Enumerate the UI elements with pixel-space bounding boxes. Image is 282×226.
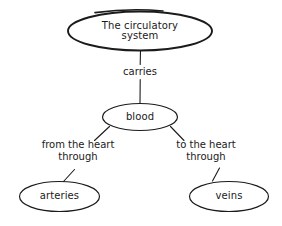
edge-right-label-to-veins xyxy=(213,168,220,181)
edge-label-to-the-heart-through: to the heart through xyxy=(152,139,260,163)
edge-label-from-the-heart-through: from the heart through xyxy=(22,139,134,163)
node-circulatory-system[interactable]: The circulatory system xyxy=(67,11,213,51)
concept-map-canvas: The circulatory system blood arteries ve… xyxy=(0,0,282,226)
node-veins[interactable]: veins xyxy=(189,181,269,212)
node-blood[interactable]: blood xyxy=(102,103,178,131)
node-arteries[interactable]: arteries xyxy=(19,181,100,212)
edge-left-label-to-arteries xyxy=(64,170,75,182)
edge-label-carries: carries xyxy=(104,66,176,78)
